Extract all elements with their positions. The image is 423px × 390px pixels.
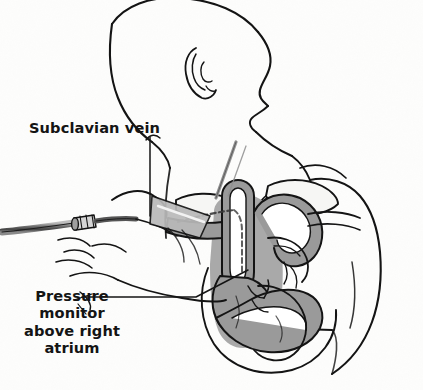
label-pressure-line-4: atrium	[16, 339, 128, 356]
label-pressure-line-2: monitor	[16, 304, 128, 321]
label-pressure-line-1: Pressure	[16, 287, 128, 304]
label-pressure-monitor: Pressure monitor above right atrium	[16, 287, 128, 357]
medical-illustration-figure: catheter is removed.	[0, 0, 423, 390]
label-pressure-line-3: above right	[16, 322, 128, 339]
label-subclavian-vein: Subclavian vein	[29, 119, 160, 137]
